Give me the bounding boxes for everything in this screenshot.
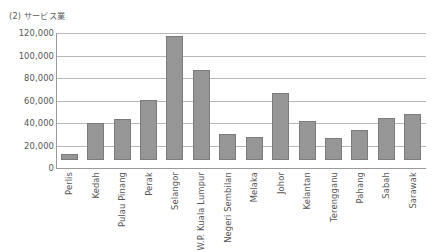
y-axis-tick-label: 100,000	[6, 51, 54, 61]
bar	[351, 130, 368, 160]
x-axis-tick-label: W.P. Kuala Lumpur	[196, 172, 206, 250]
axis-baseline	[56, 168, 426, 169]
bar	[61, 154, 78, 160]
x-axis-tick-label: Selangor	[170, 172, 180, 210]
plot-area: 120,000100,00080,00060,00040,00020,0000	[0, 22, 433, 172]
x-axis-tick-label: Pulau Pinang	[117, 172, 127, 227]
y-axis-tick-label: 40,000	[6, 118, 54, 128]
bar	[246, 137, 263, 160]
x-axis-tick-label: Kelantan	[302, 172, 312, 210]
x-axis-tick-label: Sabah	[381, 172, 391, 199]
x-axis-tick-label: Perak	[144, 172, 154, 196]
x-axis-tick-label: Terengganu	[329, 172, 339, 222]
y-axis-tick-label: 80,000	[6, 73, 54, 83]
bar	[87, 123, 104, 160]
x-axis-tick-label: Kedah	[91, 172, 101, 198]
x-axis-tick-label: Negeri Sembilan	[223, 172, 233, 243]
bar	[325, 138, 342, 160]
y-axis-tick-label: 120,000	[6, 28, 54, 38]
y-axis-tick-label: 60,000	[6, 96, 54, 106]
bars-container	[56, 22, 426, 168]
y-axis-tick-label: 20,000	[6, 141, 54, 151]
bar	[378, 118, 395, 160]
bar	[299, 121, 316, 160]
y-axis-tick-label: 0	[6, 163, 54, 173]
bar	[193, 70, 210, 160]
x-axis-tick-label: Johor	[276, 172, 286, 194]
x-axis-tick-label: Pahang	[355, 172, 365, 203]
services-industry-bar-chart: (2) サービス業 120,000100,00080,00060,00040,0…	[0, 0, 433, 252]
bar	[219, 134, 236, 160]
chart-title: (2) サービス業	[9, 9, 65, 21]
bar	[272, 93, 289, 161]
x-axis-tick-label: Perlis	[64, 172, 74, 195]
bar	[140, 100, 157, 160]
y-axis-tick-labels: 120,000100,00080,00060,00040,00020,0000	[0, 22, 54, 172]
bar	[166, 36, 183, 160]
bar	[114, 119, 131, 160]
x-axis-tick-labels: PerlisKedahPulau PinangPerakSelangorW.P.…	[56, 172, 426, 246]
x-axis-tick-label: Sarawak	[408, 172, 418, 209]
x-axis-tick-label: Melaka	[249, 172, 259, 202]
bar	[404, 114, 421, 160]
